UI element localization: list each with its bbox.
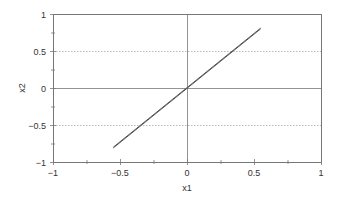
y-axis-label: x2 [17,83,27,93]
x-axis-label: x1 [182,183,192,193]
x-tick-label: 0.5 [248,168,261,178]
series-line-branch-upper [113,28,260,147]
chart: −1−0.500.51−1−0.500.51 x1 x2 [0,0,337,204]
y-tick-label: 0 [41,84,46,94]
tick-labels: −1−0.500.51−1−0.500.51 [28,10,323,179]
y-tick-label: 1 [41,10,46,20]
x-tick-label: 0 [184,168,189,178]
x-tick-label: −1 [48,168,58,178]
x-tick-label: 1 [318,168,323,178]
y-tick-label: 0.5 [33,47,46,57]
x-tick-label: −0.5 [111,168,129,178]
y-tick-label: −0.5 [28,121,46,131]
y-tick-label: −1 [36,158,46,168]
series-group [113,28,260,148]
